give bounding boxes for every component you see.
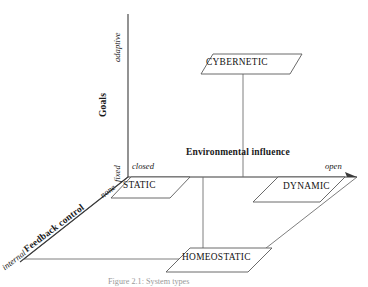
- figure-caption: Figure 2.1: System types: [108, 277, 189, 286]
- tick-label-open: open: [325, 161, 342, 171]
- node-label-cybernetic: CYBERNETIC: [206, 57, 268, 67]
- tick-label-fixed: fixed: [112, 165, 122, 182]
- axis-label-environmental-influence: Environmental influence: [186, 147, 290, 157]
- tick-label-closed: closed: [132, 161, 154, 171]
- node-label-static: STATIC: [123, 180, 156, 190]
- diagram-canvas: [0, 0, 368, 287]
- node-label-homeostatic: HOMEOSTATIC: [182, 252, 251, 262]
- axis-arrow-horizontal: [345, 172, 357, 177]
- node-label-dynamic: DYNAMIC: [283, 181, 330, 191]
- axis-group: [20, 14, 357, 262]
- tick-label-adaptive: adaptive: [112, 32, 122, 62]
- figure-root: Goals adaptive fixed Environmental influ…: [0, 0, 368, 287]
- stem-group: [203, 74, 243, 272]
- axis-label-goals: Goals: [98, 93, 108, 117]
